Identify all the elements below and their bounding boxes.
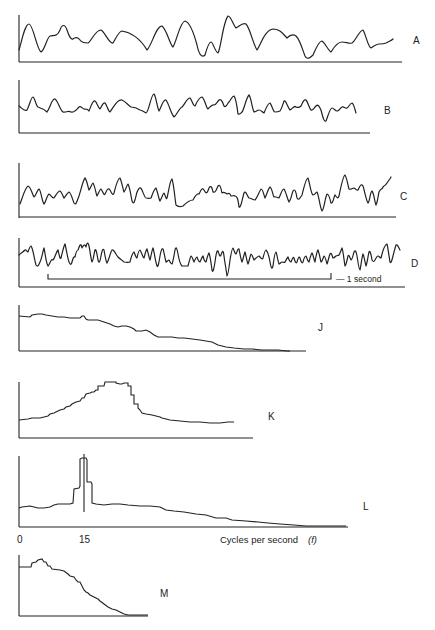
panel-c-trace xyxy=(20,175,391,211)
panel-m-label: M xyxy=(160,588,168,599)
panel-d-scale-bar-label: — 1 second xyxy=(336,274,382,284)
panel-j: J xyxy=(19,305,323,351)
panel-b: B xyxy=(19,80,391,133)
panel-k-curve xyxy=(19,382,234,423)
panel-l: 0 15 Cycles per second (f) L xyxy=(17,454,369,545)
panel-l-tick-15: 15 xyxy=(79,534,91,545)
panel-j-curve xyxy=(19,314,290,351)
panel-d: — 1 second D xyxy=(19,238,418,287)
panel-a-trace xyxy=(19,16,393,58)
panel-k-label: K xyxy=(268,411,275,422)
panel-d-label: D xyxy=(411,258,418,269)
panel-c: C xyxy=(19,163,407,218)
panel-a-label: A xyxy=(413,35,420,46)
panel-m-curve xyxy=(19,559,148,615)
panel-l-curve xyxy=(19,458,346,526)
panel-l-label: L xyxy=(363,501,369,512)
figure-canvas: A B C — 1 second D J K xyxy=(0,0,435,630)
panel-c-label: C xyxy=(400,191,407,202)
freq-axis-variable: (f) xyxy=(308,534,317,545)
panel-b-label: B xyxy=(384,105,391,116)
panel-d-scale-bar xyxy=(48,273,331,279)
panel-d-trace xyxy=(19,243,400,276)
panel-j-label: J xyxy=(318,322,323,333)
freq-axis-title: Cycles per second xyxy=(220,534,298,545)
panel-b-trace xyxy=(19,94,356,121)
panel-k: K xyxy=(19,382,275,438)
panel-m: M xyxy=(19,555,168,616)
panel-a: A xyxy=(19,15,420,62)
panel-l-tick-0: 0 xyxy=(17,534,23,545)
